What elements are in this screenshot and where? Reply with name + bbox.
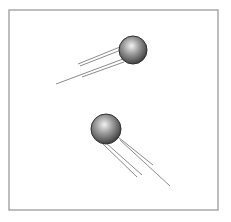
motion-line [103,144,137,177]
motion-line [120,140,170,186]
frame-border [9,10,218,210]
motion-line [106,143,142,175]
lower-sphere [91,114,121,144]
motion-line [78,47,120,64]
motion-line [82,62,124,77]
motion-line [118,137,153,165]
motion-line [80,50,121,66]
figure-canvas [0,0,231,222]
upper-sphere [119,36,147,64]
spheres [91,36,147,144]
